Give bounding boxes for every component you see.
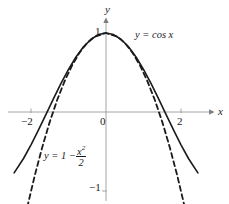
parabola-fraction: x22 xyxy=(76,145,86,169)
axes-group xyxy=(8,22,210,201)
parabola-denominator: 2 xyxy=(76,157,86,168)
figure-canvas: y x 1 −1 −2 0 2 y = cos x y = 1 −x22 xyxy=(0,0,229,204)
parabola-curve-label: y = 1 −x22 xyxy=(44,145,86,169)
x-tick-label-neg2: −2 xyxy=(21,116,33,127)
x-tick-label-2: 2 xyxy=(177,116,183,127)
cosine-curve-label: y = cos x xyxy=(135,30,173,41)
y-axis-label: y xyxy=(105,4,110,15)
y-tick-label-1: 1 xyxy=(95,26,101,37)
x-axis-label: x xyxy=(218,106,223,117)
plot-area xyxy=(0,0,229,204)
x-tick-label-0: 0 xyxy=(100,116,106,127)
parabola-exponent: 2 xyxy=(82,144,86,152)
parabola-numerator: x2 xyxy=(76,145,86,158)
y-tick-label-neg1: −1 xyxy=(89,182,101,193)
parabola-label-prefix: y = 1 − xyxy=(44,150,76,161)
